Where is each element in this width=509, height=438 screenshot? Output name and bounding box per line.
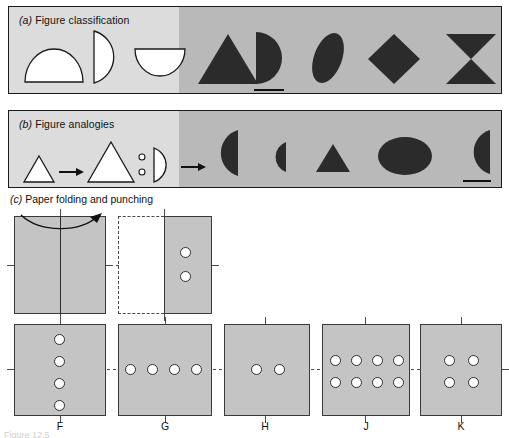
section-paper-folding: (c) Paper folding and punching F G H: [8, 193, 502, 433]
tick-right-K: [502, 369, 509, 370]
answer-a-4-diamond[interactable]: [367, 33, 421, 85]
answer-b-4-ellipse[interactable]: [377, 135, 433, 177]
tick-left-sheet2: [110, 265, 119, 266]
shape-large-triangle[interactable]: [87, 141, 135, 183]
stimulus-hole-1: [180, 247, 191, 258]
panel-figure-analogies: (b) Figure analogies: [8, 110, 502, 188]
tick-right-F: [107, 369, 116, 370]
section-c-letter: (c): [10, 193, 22, 205]
tick-left-F: [7, 369, 14, 370]
option-K-hole-4: [468, 377, 479, 388]
tick-top-K: [461, 317, 462, 324]
tick-top-F: [60, 317, 61, 324]
option-J-sheet[interactable]: [322, 324, 410, 416]
option-J-hole-3: [372, 355, 383, 366]
option-letter-H: H: [250, 420, 280, 432]
shape-half-disc-down[interactable]: [133, 47, 187, 81]
option-K-hole-3: [444, 377, 455, 388]
tick-top-sheet2: [164, 209, 165, 216]
stimulus-hole-2: [180, 271, 191, 282]
panel-a-letter: (a): [19, 14, 32, 26]
option-G-hole-2: [147, 364, 158, 375]
option-J-hole-7: [372, 377, 383, 388]
option-F-hole-2: [54, 356, 65, 367]
panel-a-title: Figure classification: [35, 14, 129, 26]
tick-top-G: [165, 317, 166, 324]
stimulus-folded-ghost-half: [118, 216, 164, 314]
tick-right-J: [411, 369, 420, 370]
analogy-colon-icon: [137, 153, 147, 177]
option-H-sheet[interactable]: [224, 324, 310, 416]
answer-b-3-triangle[interactable]: [315, 143, 351, 173]
arrow-right-icon-2: [181, 161, 207, 173]
option-H-hole-1: [251, 364, 262, 375]
answer-b-1-half-disc-left[interactable]: [209, 129, 241, 177]
option-J-hole-6: [351, 377, 362, 388]
answer-b-5-half-disc-left[interactable]: [461, 129, 493, 175]
fold-arrow-icon: [18, 211, 104, 233]
panel-b-label: (b) Figure analogies: [19, 118, 114, 130]
tick-top-sheet1: [60, 209, 61, 216]
option-F-hole-3: [54, 378, 65, 389]
answer-b-5-selection-underline: [463, 180, 491, 182]
option-G-hole-1: [125, 364, 136, 375]
option-G-hole-4: [191, 364, 202, 375]
panel-b-title: Figure analogies: [35, 118, 114, 130]
option-G-hole-3: [169, 364, 180, 375]
shape-half-disc-up[interactable]: [23, 45, 85, 85]
option-J-hole-2: [351, 355, 362, 366]
option-K-hole-2: [468, 355, 479, 366]
option-F-hole-4: [54, 400, 65, 411]
tick-right-G: [213, 369, 222, 370]
option-K-sheet[interactable]: [420, 324, 502, 416]
answer-a-1-triangle[interactable]: [197, 33, 259, 85]
answer-b-2-half-disc-small[interactable]: [267, 141, 289, 173]
stimulus-folded-sheet[interactable]: [164, 216, 212, 314]
panel-a-label: (a) Figure classification: [19, 14, 129, 26]
option-letter-K: K: [446, 420, 476, 432]
answer-a-2-half-disc[interactable]: [253, 31, 287, 85]
section-c-title: Paper folding and punching: [25, 193, 153, 205]
tick-top-J: [365, 317, 366, 324]
option-K-hole-1: [444, 355, 455, 366]
option-J-hole-8: [393, 377, 404, 388]
shape-half-disc-right[interactable]: [91, 29, 127, 85]
arrow-right-icon-1: [59, 166, 85, 178]
answer-a-3-ellipse[interactable]: [305, 29, 351, 87]
option-F-hole-1: [54, 334, 65, 345]
tick-top-H: [265, 317, 266, 324]
tick-right-sheet2: [212, 265, 219, 266]
option-letter-G: G: [150, 420, 180, 432]
shape-half-disc-right-b[interactable]: [151, 146, 177, 184]
tick-left-sheet1: [7, 265, 14, 266]
option-J-hole-4: [393, 355, 404, 366]
panel-b-letter: (b): [19, 118, 32, 130]
option-H-hole-2: [274, 364, 285, 375]
option-letter-J: J: [351, 420, 381, 432]
shape-small-triangle[interactable]: [23, 155, 55, 183]
option-J-hole-5: [330, 377, 341, 388]
option-J-hole-1: [330, 355, 341, 366]
panel-figure-classification: (a) Figure classification: [8, 6, 502, 94]
section-c-label: (c) Paper folding and punching: [10, 193, 153, 205]
figure-bottom-caption: Figure 12.5: [4, 430, 50, 438]
tick-right-H: [311, 369, 320, 370]
answer-a-5-bowtie[interactable]: [445, 33, 497, 85]
answer-a-2-selection-underline: [254, 89, 284, 91]
